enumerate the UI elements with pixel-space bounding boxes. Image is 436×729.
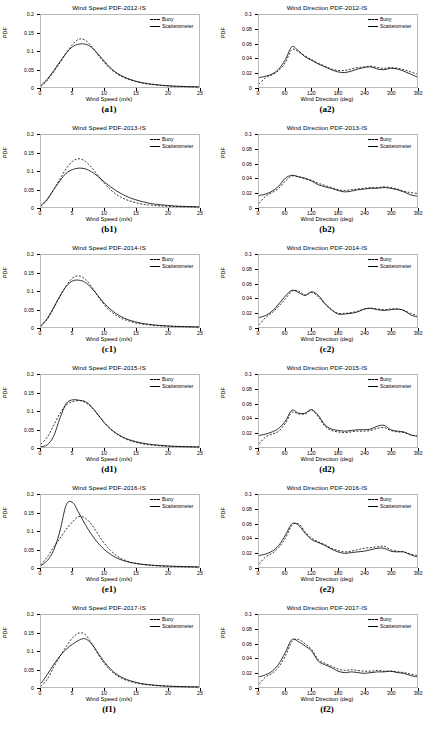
y-axis-label: PDF (2, 507, 8, 518)
legend-item-scatterometer: Scatterometer (150, 23, 212, 30)
legend-item-scatterometer: Scatterometer (368, 383, 430, 390)
y-tick-label: 0.02 (226, 70, 252, 76)
x-tick-mark (168, 688, 169, 691)
y-tick-label: 0.15 (8, 390, 34, 396)
legend-item-buoy: Buoy (150, 136, 212, 143)
y-tick-mark (37, 633, 40, 634)
y-tick-label: 0.2 (8, 611, 34, 617)
x-tick-mark (285, 448, 286, 451)
legend-label: Scatterometer (162, 623, 193, 630)
legend-label: Scatterometer (162, 383, 193, 390)
x-tick-mark (338, 88, 339, 91)
y-tick-label: 0.2 (8, 131, 34, 137)
series-line-scatterometer (41, 168, 199, 207)
x-tick-mark (72, 88, 73, 91)
y-tick-mark (255, 254, 258, 255)
y-tick-mark (255, 29, 258, 30)
x-tick-mark (365, 88, 366, 91)
y-tick-label: 0.1 (8, 408, 34, 414)
series-line-scatterometer (259, 523, 417, 557)
y-tick-mark (37, 494, 40, 495)
panel-title: Wind Direction PDF-2015-IS (218, 364, 436, 371)
series-line-buoy (259, 523, 417, 564)
x-tick-mark (338, 448, 339, 451)
wind-pdf-figure: Wind Speed PDF-2012-IS00.050.10.150.2051… (0, 0, 436, 729)
y-tick-label: 0.1 (226, 11, 252, 17)
panel-title: Wind Speed PDF-2017-IS (0, 604, 218, 611)
y-tick-label: 0.15 (8, 510, 34, 516)
legend-item-buoy: Buoy (368, 376, 430, 383)
x-tick-mark (418, 208, 419, 211)
panel-row: Wind Speed PDF-2017-IS00.050.10.150.2051… (0, 600, 436, 729)
x-tick-mark (136, 688, 137, 691)
legend-swatch-solid (368, 386, 378, 387)
plot-panel-d1: Wind Speed PDF-2015-IS00.050.10.150.2051… (0, 360, 218, 480)
y-tick-label: 0.02 (226, 430, 252, 436)
legend-label: Buoy (162, 256, 173, 263)
y-tick-label: 0.1 (8, 648, 34, 654)
x-tick-mark (311, 568, 312, 571)
subplot-label: (e1) (0, 584, 218, 594)
subplot-label: (d1) (0, 464, 218, 474)
legend-item-scatterometer: Scatterometer (368, 143, 430, 150)
legend: BuoyScatterometer (150, 136, 212, 150)
x-tick-mark (200, 448, 201, 451)
y-tick-label: 0.05 (8, 547, 34, 553)
legend: BuoyScatterometer (150, 616, 212, 630)
y-tick-mark (255, 673, 258, 674)
x-tick-mark (168, 448, 169, 451)
y-tick-mark (37, 70, 40, 71)
x-tick-mark (136, 448, 137, 451)
y-tick-mark (37, 14, 40, 15)
y-tick-label: 0.1 (226, 491, 252, 497)
legend-swatch-solid (150, 266, 160, 267)
plot-panel-d2: Wind Direction PDF-2015-IS00.020.040.060… (218, 360, 436, 480)
legend-swatch-dash (150, 139, 160, 140)
y-tick-mark (255, 374, 258, 375)
y-tick-mark (255, 418, 258, 419)
series-line-buoy (41, 633, 199, 687)
legend-label: Scatterometer (380, 503, 411, 510)
legend-swatch-dash (368, 19, 378, 20)
legend: BuoyScatterometer (368, 16, 430, 30)
y-axis-label: PDF (2, 627, 8, 638)
legend: BuoyScatterometer (368, 256, 430, 270)
legend-label: Scatterometer (162, 23, 193, 30)
y-tick-mark (255, 44, 258, 45)
y-tick-label: 0.08 (226, 266, 252, 272)
series-line-scatterometer (41, 44, 199, 87)
legend-swatch-solid (150, 26, 160, 27)
legend: BuoyScatterometer (368, 136, 430, 150)
x-tick-mark (168, 328, 169, 331)
y-tick-label: 0.1 (226, 611, 252, 617)
x-tick-mark (338, 328, 339, 331)
series-line-scatterometer (41, 280, 199, 327)
x-tick-mark (311, 208, 312, 211)
legend-swatch-solid (368, 506, 378, 507)
y-axis-label: PDF (220, 627, 226, 638)
y-tick-mark (255, 149, 258, 150)
x-tick-mark (391, 208, 392, 211)
legend-item-buoy: Buoy (368, 256, 430, 263)
series-line-scatterometer (259, 46, 417, 77)
y-tick-mark (37, 614, 40, 615)
x-tick-mark (40, 328, 41, 331)
y-tick-label: 0.2 (8, 491, 34, 497)
y-tick-label: 0.04 (226, 535, 252, 541)
y-tick-mark (37, 291, 40, 292)
legend: BuoyScatterometer (368, 616, 430, 630)
x-tick-mark (338, 208, 339, 211)
x-tick-mark (285, 88, 286, 91)
series-line-buoy (259, 639, 417, 684)
plot-panel-a2: Wind Direction PDF-2012-IS00.020.040.060… (218, 0, 436, 120)
legend-swatch-solid (368, 626, 378, 627)
series-line-buoy (259, 49, 417, 84)
x-tick-mark (104, 208, 105, 211)
y-tick-label: 0.05 (8, 187, 34, 193)
legend: BuoyScatterometer (150, 376, 212, 390)
legend-label: Buoy (380, 136, 391, 143)
x-tick-mark (258, 448, 259, 451)
y-tick-mark (37, 153, 40, 154)
legend-swatch-dash (368, 619, 378, 620)
x-axis-label: Wind Speed (m/s) (0, 96, 218, 102)
